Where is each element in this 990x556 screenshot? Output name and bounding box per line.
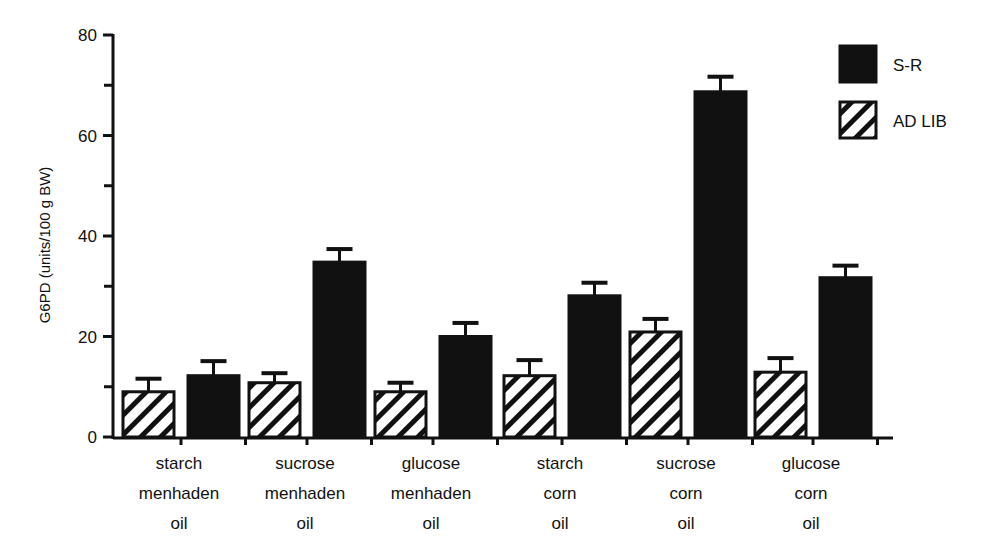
x-category-label: starchcornoil: [537, 454, 583, 533]
x-axis-labels: starchmenhadenoilsucrosemenhadenoilgluco…: [139, 454, 840, 533]
bar-ad-lib: [123, 392, 174, 437]
legend-swatch-hatched: [840, 102, 876, 138]
legend: S-RAD LIB: [840, 46, 947, 138]
bar-s-r: [569, 296, 620, 437]
x-category-label: glucosecornoil: [782, 454, 841, 533]
x-category-label-line: sucrose: [275, 454, 335, 473]
bars-group: [123, 77, 871, 437]
bar-s-r: [314, 262, 365, 437]
y-tick-label: 80: [78, 26, 97, 45]
chart-canvas: 020406080 starchmenhadenoilsucrosemenhad…: [0, 0, 990, 556]
bar-ad-lib: [504, 376, 555, 437]
bar-s-r: [440, 337, 491, 438]
legend-swatch-solid: [840, 46, 876, 82]
y-tick-label: 40: [78, 227, 97, 246]
bar-ad-lib: [755, 372, 806, 437]
legend-item: S-R: [840, 46, 922, 82]
x-category-label-line: oil: [802, 514, 819, 533]
bar-chart: 020406080 starchmenhadenoilsucrosemenhad…: [0, 0, 990, 556]
bar-ad-lib: [630, 332, 681, 437]
y-axis-label: G6PD (units/100 g BW): [36, 167, 53, 324]
x-category-label-line: oil: [422, 514, 439, 533]
legend-item: AD LIB: [840, 102, 947, 138]
x-category-label-line: sucrose: [656, 454, 716, 473]
x-category-label-line: oil: [296, 514, 313, 533]
x-axis: [113, 438, 893, 445]
x-category-label-line: corn: [543, 484, 576, 503]
x-category-label-line: starch: [537, 454, 583, 473]
x-category-label-line: oil: [170, 514, 187, 533]
x-category-label-line: starch: [156, 454, 202, 473]
x-category-label-line: oil: [677, 514, 694, 533]
legend-label: S-R: [893, 56, 922, 75]
y-tick-label: 0: [88, 428, 97, 447]
x-category-label: glucosemenhadenoil: [391, 454, 471, 533]
x-category-label: starchmenhadenoil: [139, 454, 219, 533]
x-category-label-line: oil: [551, 514, 568, 533]
bar-s-r: [695, 92, 746, 437]
x-category-label: sucrosemenhadenoil: [265, 454, 345, 533]
y-tick-label: 20: [78, 328, 97, 347]
x-category-label-line: menhaden: [139, 484, 219, 503]
bar-ad-lib: [375, 392, 426, 437]
x-category-label-line: glucose: [782, 454, 841, 473]
bar-s-r: [188, 376, 239, 437]
bar-ad-lib: [249, 383, 300, 437]
x-category-label-line: corn: [669, 484, 702, 503]
x-category-label: sucrosecornoil: [656, 454, 716, 533]
y-tick-label: 60: [78, 127, 97, 146]
x-category-label-line: corn: [794, 484, 827, 503]
y-axis: 020406080: [78, 26, 113, 447]
x-category-label-line: menhaden: [391, 484, 471, 503]
x-category-label-line: glucose: [402, 454, 461, 473]
x-category-label-line: menhaden: [265, 484, 345, 503]
legend-label: AD LIB: [893, 112, 947, 131]
bar-s-r: [820, 278, 871, 437]
